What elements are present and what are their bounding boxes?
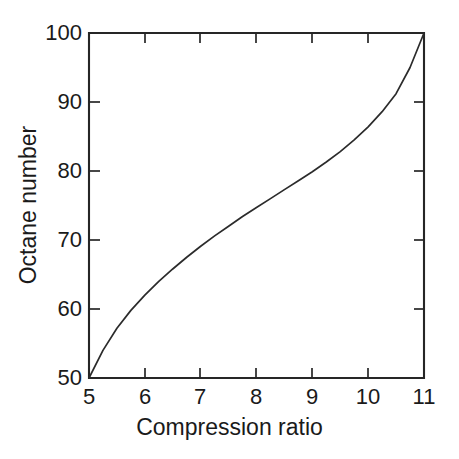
y-tick-marks-right xyxy=(414,102,424,309)
data-series-curve xyxy=(89,33,424,378)
y-tick-marks xyxy=(89,33,100,378)
x-tick-label-5: 5 xyxy=(83,386,95,408)
x-tick-label-6: 6 xyxy=(139,386,151,408)
x-tick-label-11: 11 xyxy=(413,386,436,408)
x-tick-label-8: 8 xyxy=(250,386,262,408)
x-tick-label-9: 9 xyxy=(306,386,318,408)
chart-figure: 100 90 80 70 60 50 5 6 7 8 9 10 11 Compr… xyxy=(0,0,459,459)
x-tick-label-10: 10 xyxy=(356,386,380,408)
x-axis-label: Compression ratio xyxy=(0,414,459,441)
x-tick-label-7: 7 xyxy=(194,386,206,408)
x-tick-marks-top xyxy=(145,33,368,43)
y-axis-label-container: Octane number xyxy=(8,0,48,459)
x-tick-marks xyxy=(89,368,424,378)
y-axis-label: Octane number xyxy=(15,126,42,285)
axis-frame xyxy=(89,33,424,378)
